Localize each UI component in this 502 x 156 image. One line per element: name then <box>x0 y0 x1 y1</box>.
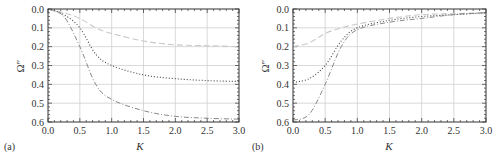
x-tick-label: 2.5 <box>448 125 461 136</box>
y-axis-label-a: Ω″ <box>14 60 26 73</box>
y-tick-label: 0.5 <box>277 98 290 109</box>
x-tick-label: 1.0 <box>105 125 118 136</box>
panel-label-b: (b) <box>252 141 264 153</box>
x-tick-label: 1.0 <box>351 125 364 136</box>
x-axis-label-b: K <box>384 140 393 152</box>
y-tick-label: 0.1 <box>32 22 45 33</box>
y-tick-label: 0.1 <box>277 22 290 33</box>
y-tick-label: 0.4 <box>277 79 290 90</box>
y-tick-label: 0.0 <box>32 4 45 15</box>
panel-label-a: (a) <box>4 141 15 153</box>
x-tick-label: 0.5 <box>74 125 87 136</box>
x-axis-label-a: K <box>135 140 144 152</box>
x-tick-label: 2.0 <box>169 125 182 136</box>
y-axis-label-b: Ω″ <box>259 60 271 73</box>
x-tick-label: 2.0 <box>415 125 428 136</box>
x-tick-label: 1.5 <box>137 125 150 136</box>
y-tick-label: 0.2 <box>32 41 45 52</box>
y-tick-label: 0.5 <box>32 98 45 109</box>
y-tick-label: 0.3 <box>32 60 45 71</box>
x-tick-label: 3.0 <box>233 125 246 136</box>
y-tick-label: 0.4 <box>32 79 45 90</box>
y-tick-label: 0.2 <box>277 41 290 52</box>
y-tick-label: 0.0 <box>277 4 290 15</box>
y-tick-label: 0.6 <box>32 117 45 128</box>
x-tick-label: 3.0 <box>480 125 493 136</box>
x-tick-label: 0.5 <box>319 125 332 136</box>
panel-b: 0.00.51.01.52.02.53.00.00.10.20.30.40.50… <box>277 4 493 137</box>
y-tick-label: 0.3 <box>277 60 290 71</box>
x-tick-label: 1.5 <box>383 125 396 136</box>
y-tick-label: 0.6 <box>277 117 290 128</box>
x-tick-label: 2.5 <box>201 125 214 136</box>
panel-a: 0.00.51.01.52.02.53.00.00.10.20.30.40.50… <box>32 4 246 137</box>
chart-figure: 0.00.51.01.52.02.53.00.00.10.20.30.40.50… <box>0 0 502 156</box>
